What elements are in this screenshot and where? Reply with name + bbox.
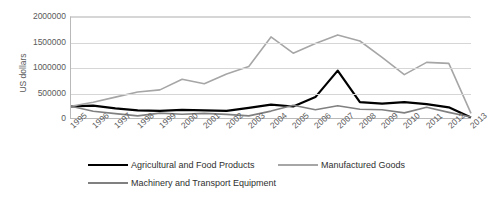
legend-item[interactable]: Machinery and Transport Equipment [88, 178, 276, 188]
gridline [71, 68, 471, 69]
x-tick-label: 2013 [468, 110, 489, 130]
plot-area [70, 16, 470, 118]
gridline [71, 94, 471, 95]
y-tick-label: 500000 [38, 88, 66, 97]
y-tick-label: 1000000 [33, 63, 66, 72]
legend-item[interactable]: Agricultural and Food Products [88, 160, 255, 170]
gridline [71, 43, 471, 44]
y-tick-label: 1500000 [33, 37, 66, 46]
x-axis-ticks: 1995199619971998199920002001200220032004… [70, 119, 470, 153]
legend-swatch [88, 182, 128, 184]
gridline [71, 17, 471, 18]
legend-label: Agricultural and Food Products [131, 160, 255, 170]
chart-legend: Agricultural and Food ProductsManufactur… [0, 158, 501, 202]
legend-label: Machinery and Transport Equipment [131, 178, 276, 188]
legend-swatch [278, 164, 318, 166]
legend-swatch [88, 164, 128, 166]
line-chart: US dollars 0500000100000015000002000000 … [0, 0, 501, 208]
y-tick-label: 2000000 [33, 12, 66, 21]
legend-label: Manufactured Goods [321, 160, 405, 170]
y-tick-label: 0 [61, 114, 66, 123]
series-line [71, 35, 471, 114]
legend-item[interactable]: Manufactured Goods [278, 160, 405, 170]
